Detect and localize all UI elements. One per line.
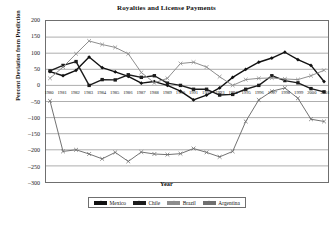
y-tick-label: –250 [28, 164, 40, 170]
x-tick-label: 1988 [150, 88, 159, 97]
legend-label: Mexico [110, 200, 126, 206]
x-tick-label: 1997 [268, 88, 277, 97]
series-lines [46, 21, 328, 182]
x-tick-label: 1999 [294, 88, 303, 97]
x-tick-label: 1993 [215, 88, 224, 97]
y-tick-label: 0 [37, 82, 40, 88]
x-tick-label: 1992 [202, 88, 211, 97]
x-tick-label: 1983 [84, 88, 93, 97]
legend-label: Argentina [218, 200, 239, 206]
y-axis-tick-labels: 200150100500–50–100–150–200–250–300 [0, 20, 43, 183]
x-tick-label: 1996 [255, 88, 264, 97]
x-axis-title: Year [0, 180, 333, 187]
legend-label: Chile [148, 200, 160, 206]
legend-item-chile[interactable]: Chile [133, 200, 160, 206]
legend-swatch-brazil [167, 201, 180, 205]
chart-legend: MexicoChileBrazilArgentina [88, 197, 246, 208]
series-brazil [48, 39, 326, 87]
y-tick-label: 200 [31, 17, 40, 23]
legend-swatch-chile [133, 201, 146, 205]
x-tick-label: 1990 [176, 88, 185, 97]
x-axis-tick-labels: 1980198119821983198419851986198719881989… [45, 88, 329, 97]
x-tick-label: 1998 [281, 88, 290, 97]
y-tick-label: –50 [31, 99, 40, 105]
y-tick-label: –200 [28, 147, 40, 153]
legend-item-mexico[interactable]: Mexico [94, 200, 126, 206]
x-tick-label: 2001 [320, 88, 329, 97]
series-argentina [48, 86, 326, 163]
y-tick-label: 150 [31, 33, 40, 39]
legend-swatch-argentina [203, 201, 216, 205]
y-tick-label: –150 [28, 131, 40, 137]
x-tick-label: 1980 [44, 88, 53, 97]
x-tick-label: 1986 [123, 88, 132, 97]
x-tick-label: 1981 [58, 88, 67, 97]
x-tick-label: 1989 [163, 88, 172, 97]
legend-swatch-mexico [94, 201, 107, 205]
y-tick-label: –100 [28, 115, 40, 121]
x-tick-label: 1984 [97, 88, 106, 97]
x-tick-label: 2000 [307, 88, 316, 97]
x-tick-label: 1982 [71, 88, 80, 97]
legend-item-brazil[interactable]: Brazil [167, 200, 196, 206]
legend-item-argentina[interactable]: Argentina [203, 200, 240, 206]
x-tick-label: 1987 [136, 88, 145, 97]
chart-container: Royalties and License Payments Percent D… [0, 0, 333, 227]
legend-label: Brazil [183, 200, 196, 206]
plot-area [45, 20, 329, 183]
y-tick-label: 100 [31, 50, 40, 56]
x-tick-label: 1994 [228, 88, 237, 97]
x-tick-label: 1985 [110, 88, 119, 97]
chart-title: Royalties and License Payments [0, 4, 333, 12]
x-tick-label: 1995 [242, 88, 251, 97]
y-tick-label: 50 [34, 66, 40, 72]
x-tick-label: 1991 [189, 88, 198, 97]
